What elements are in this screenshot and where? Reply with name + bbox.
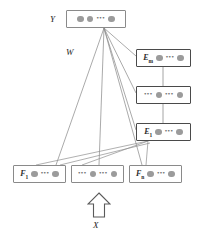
unit-dot bbox=[147, 171, 154, 178]
ellipsis-icon: ••• bbox=[78, 170, 87, 177]
edge-e1-to-f1-alt bbox=[60, 143, 150, 165]
edge-e1-to-fn bbox=[146, 141, 148, 165]
unit-dot bbox=[168, 171, 175, 178]
edge-y-to-e1 bbox=[104, 28, 136, 130]
edge-y-to-fmid bbox=[99, 28, 104, 165]
ellipsis-icon: ••• bbox=[99, 170, 108, 177]
ellipsis-icon: ••• bbox=[41, 170, 50, 177]
unit-dot bbox=[52, 171, 59, 178]
input-label: X bbox=[93, 220, 99, 230]
input-arrow-icon bbox=[87, 192, 111, 218]
edge-y-to-em bbox=[104, 28, 136, 56]
ellipsis-icon: ••• bbox=[96, 15, 105, 22]
ellipsis-icon: ••• bbox=[157, 170, 166, 177]
unit-dot bbox=[156, 92, 163, 99]
unit-dot bbox=[177, 92, 184, 99]
node-box-expert-em[interactable]: Em ••• bbox=[136, 49, 191, 67]
node-label-f1: F1 bbox=[20, 169, 28, 180]
unit-dot bbox=[176, 129, 183, 136]
edge-y-to-f1 bbox=[56, 28, 104, 165]
edge-y-to-emid bbox=[104, 28, 136, 93]
unit-dot bbox=[87, 16, 94, 23]
unit-dot bbox=[111, 171, 118, 178]
unit-dot bbox=[108, 16, 115, 23]
node-label-fn: Fn bbox=[136, 169, 144, 180]
unit-dot bbox=[177, 55, 184, 62]
unit-dot bbox=[156, 55, 163, 62]
node-box-feature-f1[interactable]: F1 ••• bbox=[13, 165, 66, 183]
unit-dot bbox=[31, 171, 38, 178]
node-box-expert-middle[interactable]: ••• ••• bbox=[136, 86, 191, 104]
node-box-feature-middle[interactable]: ••• ••• bbox=[71, 165, 124, 183]
unit-dot bbox=[155, 129, 162, 136]
output-layer-label: Y bbox=[50, 14, 55, 24]
ellipsis-icon: ••• bbox=[165, 128, 174, 135]
ellipsis-icon: ••• bbox=[165, 91, 174, 98]
network-diagram: Y W X ••• Em ••• ••• ••• E1 ••• F1 ••• •… bbox=[0, 0, 200, 236]
weight-label: W bbox=[66, 47, 74, 57]
node-box-feature-fn[interactable]: Fn ••• bbox=[129, 165, 182, 183]
node-box-expert-e1[interactable]: E1 ••• bbox=[136, 123, 191, 141]
unit-dot bbox=[90, 171, 97, 178]
node-label-e1: E1 bbox=[144, 127, 152, 138]
ellipsis-icon: ••• bbox=[166, 54, 175, 61]
node-label-em: Em bbox=[143, 53, 153, 64]
node-box-output-y[interactable]: ••• bbox=[66, 10, 126, 28]
ellipsis-icon: ••• bbox=[144, 91, 153, 98]
unit-dot bbox=[77, 16, 84, 23]
